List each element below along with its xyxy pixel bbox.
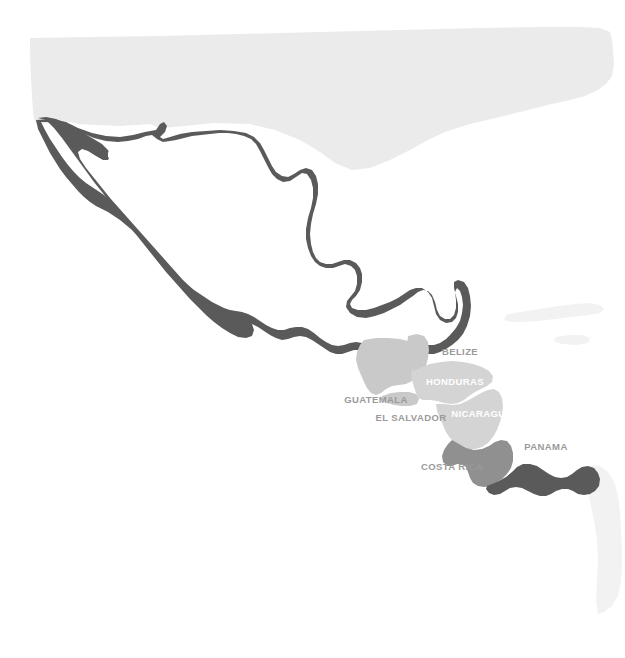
map-svg: MEXICO BELIZE GUATEMALA HONDURAS EL SALV… bbox=[0, 0, 625, 658]
map-container: MEXICO BELIZE GUATEMALA HONDURAS EL SALV… bbox=[0, 0, 625, 658]
